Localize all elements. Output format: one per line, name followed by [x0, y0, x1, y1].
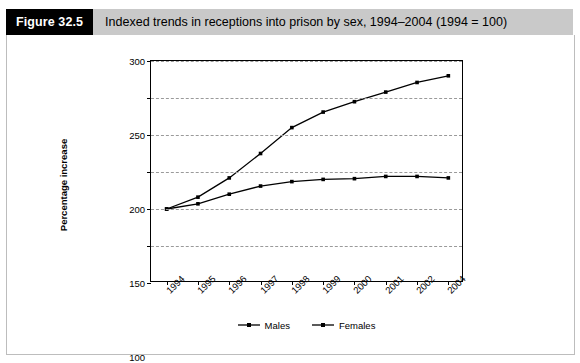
y-tick-mark — [147, 246, 151, 247]
data-point — [447, 74, 451, 78]
y-axis-tick-label: 200 — [129, 204, 145, 215]
data-point — [353, 177, 357, 181]
y-tick-mark — [147, 98, 151, 99]
data-point — [259, 152, 263, 156]
chart-legend: MalesFemales — [150, 320, 463, 331]
gridline — [151, 246, 462, 247]
legend-marker-icon — [238, 320, 260, 331]
chart-card: Percentage increase 05010015020025030019… — [6, 35, 575, 355]
y-tick-mark — [147, 172, 151, 173]
y-tick-mark — [147, 135, 151, 136]
gridline — [151, 135, 462, 136]
legend-item: Females — [312, 320, 375, 331]
data-point — [259, 184, 263, 188]
gridline — [151, 61, 462, 62]
series-line-males — [167, 176, 449, 209]
data-point — [384, 175, 388, 179]
gridline — [151, 172, 462, 173]
data-point — [196, 195, 200, 199]
figure-page: Figure 32.5 Indexed trends in receptions… — [0, 0, 580, 363]
y-tick-mark — [147, 61, 151, 62]
y-tick-mark — [147, 283, 151, 284]
chart-area: Percentage increase 05010015020025030019… — [7, 35, 574, 354]
y-tick-mark — [147, 209, 151, 210]
legend-label: Females — [339, 320, 375, 331]
plot-box: 0501001502002503001994199519961997199819… — [150, 60, 463, 282]
figure-number: Figure 32.5 — [6, 9, 93, 35]
data-point — [227, 192, 231, 196]
y-axis-tick-label: 100 — [129, 352, 145, 363]
figure-header: Figure 32.5 Indexed trends in receptions… — [6, 9, 573, 35]
data-point — [447, 176, 451, 180]
data-point — [227, 176, 231, 180]
y-axis-tick-label: 250 — [129, 130, 145, 141]
data-point — [196, 202, 200, 206]
data-point — [321, 110, 325, 114]
data-point — [290, 126, 294, 130]
data-point — [415, 175, 419, 179]
figure-caption: Indexed trends in receptions into prison… — [93, 9, 573, 35]
y-axis-title: Percentage increase — [58, 139, 69, 231]
data-point — [290, 180, 294, 184]
legend-marker-icon — [312, 320, 334, 331]
data-point — [384, 90, 388, 94]
y-axis-tick-label: 300 — [129, 56, 145, 67]
y-axis-tick-label: 150 — [129, 278, 145, 289]
data-point — [415, 81, 419, 85]
gridline — [151, 209, 462, 210]
legend-item: Males — [238, 320, 290, 331]
data-point — [321, 178, 325, 182]
data-point — [353, 100, 357, 104]
legend-label: Males — [265, 320, 290, 331]
gridline — [151, 98, 462, 99]
series-line-females — [167, 76, 449, 209]
